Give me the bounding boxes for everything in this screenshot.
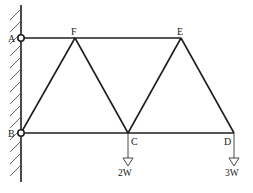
label-A: A: [8, 33, 16, 44]
truss-diagram: A B F E C D 2W 3W: [0, 0, 253, 193]
wall-support: [10, 5, 21, 182]
member-FC: [75, 38, 128, 133]
label-D: D: [224, 136, 231, 147]
label-C: C: [131, 136, 138, 147]
member-CE: [128, 38, 181, 133]
label-E: E: [177, 26, 183, 37]
label-F: F: [71, 26, 77, 37]
arrow-down-icon: [229, 158, 239, 166]
label-B: B: [8, 128, 15, 139]
member-ED: [181, 38, 234, 133]
load-label-C: 2W: [118, 168, 132, 178]
truss-members: [21, 38, 234, 133]
arrow-down-icon: [123, 158, 133, 166]
member-BF: [21, 38, 75, 133]
pin-A-icon: [18, 35, 24, 41]
load-label-D: 3W: [225, 168, 239, 178]
pin-B-icon: [18, 130, 24, 136]
